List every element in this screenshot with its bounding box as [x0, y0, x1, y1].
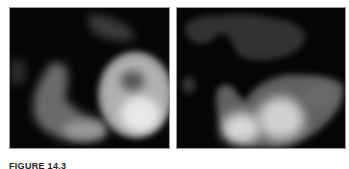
scan-image-right: [177, 8, 345, 148]
figure-caption: FIGURE 14.3: [9, 161, 349, 169]
figure-caption-label: FIGURE 14.3: [9, 161, 66, 169]
figure-panel-right: [176, 7, 346, 149]
figure-panel-left: [9, 7, 170, 149]
scan-image-left: [10, 8, 169, 148]
